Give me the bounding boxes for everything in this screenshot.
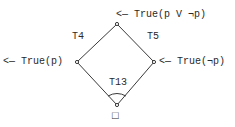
node-bottom <box>115 103 118 106</box>
edge-label-t4: T4 <box>72 32 84 42</box>
angle-label-t13: T13 <box>109 78 127 88</box>
edge-top-left <box>77 24 117 62</box>
node-top-annotation: <— True(p V ¬p) <box>116 10 206 20</box>
node-bottom-annotation: □ <box>112 111 119 121</box>
edge-label-t5: T5 <box>147 32 159 42</box>
lattice-diagram: <— True(p V ¬p) T4 T5 <— True(p) <— True… <box>0 0 235 127</box>
angle-arc <box>108 94 126 97</box>
node-left-annotation: <— True(p) <box>3 57 63 67</box>
edge-top-right <box>117 24 154 62</box>
node-top <box>115 22 118 25</box>
node-right <box>152 60 155 63</box>
node-right-annotation: <— True(¬p) <box>159 57 225 67</box>
node-left <box>75 60 78 63</box>
